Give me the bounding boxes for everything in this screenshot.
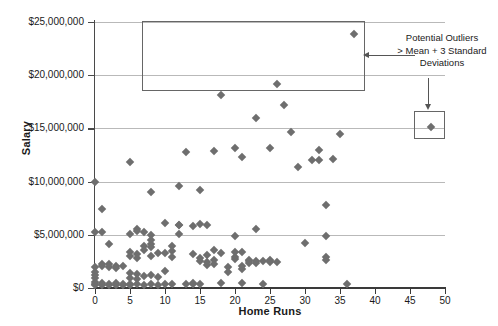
x-tick-mark: [445, 288, 446, 294]
data-point: [329, 155, 337, 163]
data-point: [217, 279, 225, 287]
data-point: [336, 129, 344, 137]
x-tick-label: 5: [115, 295, 145, 306]
callout-arrow-down-head: [425, 104, 431, 110]
data-point: [217, 249, 225, 257]
data-point: [301, 239, 309, 247]
x-tick-label: 10: [150, 295, 180, 306]
data-point: [98, 205, 106, 213]
y-tick-label: $10,000,000: [0, 176, 84, 187]
data-point: [161, 267, 169, 275]
data-point: [252, 114, 260, 122]
data-point: [175, 221, 183, 229]
y-tick-label: $5,000,000: [0, 229, 84, 240]
data-point: [210, 146, 218, 154]
x-tick-label: 45: [395, 295, 425, 306]
data-point: [168, 253, 176, 261]
upper-outlier-region-box: [142, 21, 365, 91]
data-point: [147, 188, 155, 196]
y-tick-label: $25,000,000: [0, 16, 84, 27]
data-point: [168, 280, 176, 288]
x-tick-label: 25: [255, 295, 285, 306]
data-point: [105, 240, 113, 248]
data-point: [259, 279, 267, 287]
scatter-chart: Salary Home Runs $0$5,000,000$10,000,000…: [0, 0, 498, 326]
callout-arrow-left-head: [363, 52, 369, 58]
x-tick-mark: [305, 288, 306, 294]
data-point: [231, 143, 239, 151]
x-tick-label: 35: [325, 295, 355, 306]
y-tick-mark: [88, 22, 95, 23]
right-outlier-point-box: [414, 111, 445, 139]
x-tick-label: 50: [430, 295, 460, 306]
x-tick-mark: [375, 288, 376, 294]
data-point: [161, 219, 169, 227]
y-tick-label: $20,000,000: [0, 69, 84, 80]
y-axis-title: Salary: [20, 98, 32, 178]
y-tick-label: $15,000,000: [0, 122, 84, 133]
x-tick-label: 0: [80, 295, 110, 306]
x-tick-label: 40: [360, 295, 390, 306]
data-point: [231, 232, 239, 240]
data-point: [119, 262, 127, 270]
data-point: [196, 186, 204, 194]
x-axis-title: Home Runs: [95, 305, 445, 317]
x-tick-label: 15: [185, 295, 215, 306]
data-point: [98, 228, 106, 236]
data-point: [196, 279, 204, 287]
data-point: [343, 279, 351, 287]
data-point: [273, 258, 281, 266]
data-point: [322, 232, 330, 240]
data-point: [294, 162, 302, 170]
data-point: [182, 148, 190, 156]
x-tick-mark: [200, 288, 201, 294]
data-point: [238, 279, 246, 287]
y-tick-mark: [88, 128, 95, 129]
y-tick-label: $0: [0, 282, 84, 293]
callout-text-line-1: Potential Outliers: [386, 32, 498, 45]
x-tick-label: 30: [290, 295, 320, 306]
data-point: [287, 127, 295, 135]
data-point: [217, 91, 225, 99]
callout-text-line-2: > Mean + 3 Standard: [386, 45, 498, 58]
data-point: [126, 158, 134, 166]
data-point: [238, 153, 246, 161]
data-point: [238, 248, 246, 256]
data-point: [322, 201, 330, 209]
x-tick-mark: [165, 288, 166, 294]
x-tick-mark: [270, 288, 271, 294]
x-tick-label: 20: [220, 295, 250, 306]
y-tick-mark: [88, 75, 95, 76]
data-point: [315, 145, 323, 153]
data-point: [280, 101, 288, 109]
x-tick-mark: [235, 288, 236, 294]
data-point: [175, 230, 183, 238]
x-tick-mark: [340, 288, 341, 294]
data-point: [315, 156, 323, 164]
callout-arrow-vertical-line: [428, 78, 429, 104]
data-point: [266, 143, 274, 151]
callout-text-line-3: Deviations: [386, 57, 498, 70]
data-point: [203, 220, 211, 228]
data-point: [252, 225, 260, 233]
x-tick-mark: [410, 288, 411, 294]
data-point: [91, 177, 99, 185]
data-point: [175, 182, 183, 190]
